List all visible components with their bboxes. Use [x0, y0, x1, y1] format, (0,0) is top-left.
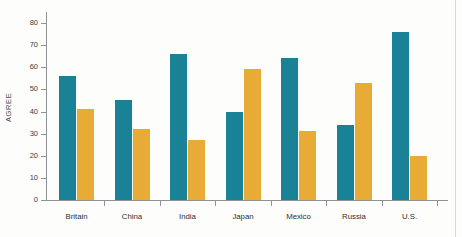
bar-teal: [59, 76, 76, 200]
y-axis-line: [46, 12, 47, 201]
bar-teal: [115, 100, 132, 200]
y-axis-tick: 70: [41, 45, 46, 46]
category-label: Mexico: [269, 212, 329, 221]
x-axis-line: [46, 200, 448, 201]
x-axis-separator: [437, 201, 438, 206]
y-axis-tick-label: 10: [30, 173, 38, 182]
bar-gold: [188, 140, 205, 200]
y-axis-tick-label: 0: [34, 195, 38, 204]
category-label: China: [102, 212, 162, 221]
y-axis-tick: 0: [41, 200, 46, 201]
bar-group: [226, 12, 261, 200]
y-axis-tick: 60: [41, 67, 46, 68]
bar-teal: [170, 54, 187, 200]
bar-teal: [337, 125, 354, 200]
bar-group: [115, 12, 150, 200]
x-axis-separator: [271, 201, 272, 206]
bar-group: [337, 12, 372, 200]
y-axis-tick: 20: [41, 156, 46, 157]
category-label: U.S.: [380, 212, 440, 221]
y-axis-tick-label: 60: [30, 62, 38, 71]
y-axis-tick: 10: [41, 178, 46, 179]
page-edge-divider: [455, 0, 456, 237]
category-label: Britain: [47, 212, 107, 221]
category-label: India: [158, 212, 218, 221]
bar-group: [59, 12, 94, 200]
bar-teal: [226, 112, 243, 201]
y-axis-tick-label: 30: [30, 129, 38, 138]
y-axis-tick: 40: [41, 112, 46, 113]
y-axis-tick: 50: [41, 89, 46, 90]
x-axis-separator: [215, 201, 216, 206]
x-axis-separator: [160, 201, 161, 206]
x-axis-separator: [382, 201, 383, 206]
x-axis-separator: [104, 201, 105, 206]
bar-teal: [281, 58, 298, 200]
x-axis-separator: [326, 201, 327, 206]
bar-group: [392, 12, 427, 200]
category-label: Russia: [324, 212, 384, 221]
y-axis-tick: 30: [41, 134, 46, 135]
bar-gold: [133, 129, 150, 200]
y-axis-tick-label: 80: [30, 18, 38, 27]
y-axis-tick-label: 40: [30, 107, 38, 116]
bar-teal: [392, 32, 409, 200]
plot-area: 01020304050607080 BritainChinaIndiaJapan…: [46, 12, 448, 201]
y-axis-tick-label: 70: [30, 40, 38, 49]
bar-gold: [299, 131, 316, 200]
y-axis-title: AGREE: [2, 62, 16, 152]
y-axis-tick-label: 50: [30, 84, 38, 93]
bar-gold: [244, 69, 261, 200]
bar-group: [170, 12, 205, 200]
category-label: Japan: [213, 212, 273, 221]
bar-gold: [410, 156, 427, 200]
bar-chart: AGREE 01020304050607080 BritainChinaIndi…: [0, 0, 462, 237]
bar-gold: [77, 109, 94, 200]
y-axis-tick-label: 20: [30, 151, 38, 160]
bar-gold: [355, 83, 372, 200]
bar-group: [281, 12, 316, 200]
y-axis-tick: 80: [41, 23, 46, 24]
